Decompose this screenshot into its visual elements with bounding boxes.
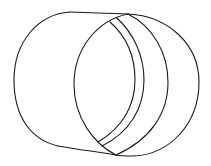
cylinder-diagram bbox=[0, 0, 211, 166]
back-outline-left-arc bbox=[14, 12, 70, 146]
inner-ring-arc-3 bbox=[116, 14, 168, 155]
top-edge-line bbox=[70, 12, 128, 14]
cylinder-drawing bbox=[0, 0, 211, 166]
outer-right-arc bbox=[116, 14, 199, 156]
